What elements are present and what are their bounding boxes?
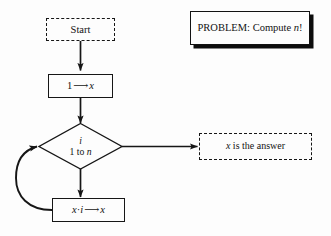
node-init-assignment: 1⟶x: [48, 74, 113, 98]
problem-statement-box: PROBLEM: Compute n!: [190, 11, 310, 45]
problem-compute-word: Compute: [253, 22, 292, 33]
node-loop-body-label: x·i⟶x: [72, 204, 105, 215]
flowchart-diagram: PROBLEM: Compute n! Start 1⟶x i 1 to n x…: [0, 0, 331, 236]
node-start-label: Start: [71, 24, 91, 35]
loop-range-label: 1 to n: [69, 147, 91, 158]
node-loop-body: x·i⟶x: [52, 198, 125, 222]
node-start: Start: [46, 18, 115, 41]
body-arrow-icon: ⟶: [83, 204, 100, 215]
node-init-label: 1⟶x: [67, 80, 94, 91]
problem-factorial: !: [299, 22, 303, 33]
node-answer: x is the answer: [199, 133, 312, 160]
body-target: x: [100, 204, 105, 215]
init-target: x: [89, 80, 94, 91]
problem-prefix: PROBLEM:: [197, 22, 250, 33]
node-loop-decision: i 1 to n: [39, 130, 122, 163]
problem-statement-text: PROBLEM: Compute n!: [197, 22, 302, 33]
loop-range-prefix: 1 to: [69, 146, 84, 157]
node-answer-label: x is the answer: [226, 141, 285, 152]
init-arrow-icon: ⟶: [72, 80, 89, 91]
answer-text: is the answer: [233, 140, 285, 151]
loop-range-variable: n: [87, 146, 92, 157]
